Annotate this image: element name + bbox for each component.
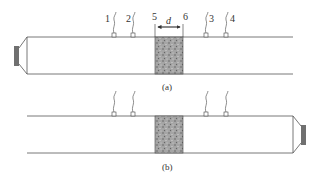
caption-a: (a) xyxy=(162,82,172,92)
microphone-3 xyxy=(204,91,208,116)
panel-a: 1 2 3 4 5 6 d (a) xyxy=(14,11,293,92)
caption-b: (b) xyxy=(162,162,173,172)
speaker-cone xyxy=(19,37,27,48)
impedance-tube-diagram: 1 2 3 4 5 6 d (a) xyxy=(0,0,320,182)
label-mic-2: 2 xyxy=(126,13,131,24)
microphone-1 xyxy=(112,12,116,37)
microphone-2 xyxy=(131,12,135,37)
microphone-2 xyxy=(131,91,135,116)
microphone-3 xyxy=(204,12,208,37)
speaker-icon xyxy=(301,125,306,145)
panel-b: (b) xyxy=(27,91,306,172)
label-mic-3: 3 xyxy=(209,13,214,24)
label-edge-5: 5 xyxy=(152,11,157,22)
label-edge-6: 6 xyxy=(183,11,188,22)
speaker-cone xyxy=(293,116,301,126)
sample xyxy=(155,116,183,153)
label-mic-1: 1 xyxy=(105,13,110,24)
speaker-icon xyxy=(14,46,19,66)
label-mic-4: 4 xyxy=(230,13,235,24)
microphone-1 xyxy=(112,91,116,116)
microphone-4 xyxy=(224,91,228,116)
label-thickness: d xyxy=(166,15,172,26)
microphone-4 xyxy=(224,12,228,37)
sample xyxy=(155,37,183,74)
